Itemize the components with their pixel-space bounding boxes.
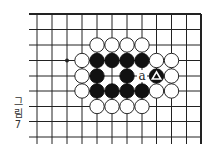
black-stone (90, 84, 104, 98)
point-label-a: a (138, 69, 145, 83)
white-stone (149, 53, 163, 67)
black-stone (135, 84, 149, 98)
white-stone (164, 84, 178, 98)
caption-line-2: 림 (11, 108, 25, 120)
white-stone (120, 38, 134, 52)
white-stone (75, 69, 89, 83)
white-stone (135, 38, 149, 52)
white-stone (135, 99, 149, 113)
star-point-icon (65, 59, 69, 63)
star-points (65, 59, 69, 63)
white-stone (90, 38, 104, 52)
black-stone (90, 69, 104, 83)
white-stone (75, 53, 89, 67)
white-stone (105, 99, 119, 113)
white-stone (105, 38, 119, 52)
stones (75, 38, 179, 114)
go-board-diagram: a (0, 0, 212, 155)
black-stone (120, 53, 134, 67)
caption-line-3: 7 (11, 119, 25, 131)
white-stone (120, 99, 134, 113)
white-stone (90, 99, 104, 113)
caption-line-1: 그 (11, 96, 25, 108)
white-stone (75, 84, 89, 98)
black-stone (120, 69, 134, 83)
point-labels: a (137, 69, 147, 83)
black-stone (120, 84, 134, 98)
white-stone (149, 84, 163, 98)
black-stone (90, 53, 104, 67)
white-stone (164, 69, 178, 83)
white-stone (164, 53, 178, 67)
black-stone (105, 84, 119, 98)
figure-caption: 그 림 7 (11, 96, 25, 131)
black-stone (135, 53, 149, 67)
black-stone (105, 53, 119, 67)
